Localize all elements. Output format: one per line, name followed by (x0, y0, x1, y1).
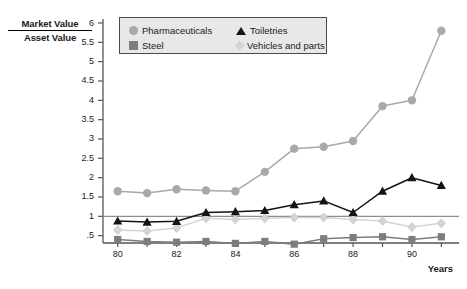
y-tick-label: 1.5 (68, 192, 94, 201)
data-point-square (202, 238, 209, 245)
data-point-square (261, 238, 268, 245)
data-point-circle (143, 189, 151, 197)
legend-label: Steel (142, 40, 164, 51)
data-point-square (144, 238, 151, 245)
data-point-triangle (319, 196, 328, 204)
x-tick-label: 84 (220, 250, 250, 259)
x-tick-label: 88 (338, 250, 368, 259)
data-point-square (379, 233, 386, 240)
data-point-square (173, 239, 180, 246)
y-tick-label: 1 (68, 212, 94, 221)
y-tick-label: 2 (68, 173, 94, 182)
data-point-circle (290, 144, 298, 152)
legend-entry-toiletries[interactable]: Toiletries (236, 26, 288, 36)
data-point-circle (319, 143, 327, 151)
data-point-circle (202, 186, 210, 194)
data-point-square (320, 235, 327, 242)
data-point-square (114, 236, 121, 243)
data-point-square (438, 233, 445, 240)
x-tick-label: 90 (397, 250, 427, 259)
data-point-square (408, 236, 415, 243)
data-point-circle (114, 187, 122, 195)
legend-label: Pharmaceuticals (142, 25, 212, 36)
data-point-diamond (408, 223, 416, 232)
x-tick-label: 82 (162, 250, 192, 259)
legend-entry-pharmaceuticals[interactable]: Pharmaceuticals (129, 26, 212, 36)
data-point-diamond (143, 226, 151, 235)
triangle-marker-icon (236, 27, 246, 35)
data-point-circle (408, 96, 416, 104)
series-steel (114, 233, 445, 248)
series-line (118, 178, 442, 222)
legend-entry-vehicles-and-parts[interactable]: Vehicles and parts (236, 41, 325, 51)
data-point-diamond (261, 214, 269, 223)
data-point-triangle (378, 187, 387, 195)
data-point-square (349, 234, 356, 241)
data-point-circle (349, 137, 357, 145)
y-tick-label: 4.5 (68, 76, 94, 85)
circle-marker-icon (129, 26, 138, 35)
data-point-diamond (378, 216, 386, 225)
legend-label: Toiletries (250, 25, 288, 36)
series-line (118, 31, 442, 193)
data-point-square (291, 241, 298, 248)
x-tick-label: 80 (103, 250, 133, 259)
y-tick-label: .5 (68, 231, 94, 240)
data-point-diamond (290, 213, 298, 222)
y-tick-label: 3 (68, 134, 94, 143)
chart-figure: Market Value Asset Value Years 65.554.54… (0, 0, 467, 289)
data-point-diamond (114, 225, 122, 234)
y-tick-label: 2.5 (68, 154, 94, 163)
legend-entry-steel[interactable]: Steel (129, 41, 164, 51)
y-tick-label: 6 (68, 19, 94, 28)
data-point-circle (172, 185, 180, 193)
y-tick-label: 5 (68, 57, 94, 66)
data-point-circle (378, 102, 386, 110)
data-point-circle (261, 168, 269, 176)
y-tick-label: 5.5 (68, 38, 94, 47)
data-point-diamond (437, 219, 445, 228)
data-point-circle (437, 27, 445, 35)
data-point-square (232, 240, 239, 247)
chart-legend: Pharmaceuticals Toiletries Steel Vehicle… (119, 17, 327, 54)
square-marker-icon (129, 41, 138, 50)
diamond-marker-icon (235, 41, 245, 51)
y-tick-label: 3.5 (68, 115, 94, 124)
data-point-diamond (320, 213, 328, 222)
series-line (118, 218, 442, 232)
data-point-circle (231, 187, 239, 195)
data-point-triangle (407, 173, 416, 181)
x-tick-label: 86 (279, 250, 309, 259)
y-tick-label: 4 (68, 96, 94, 105)
legend-label: Vehicles and parts (247, 40, 325, 51)
x-axis-title: Years (428, 263, 453, 274)
